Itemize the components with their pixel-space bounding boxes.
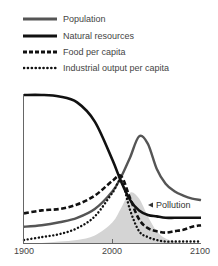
chart-plot-area: 1900 2000 2100 Pollution xyxy=(0,0,218,266)
series-layer xyxy=(24,95,201,243)
x-tick-label-2100: 2100 xyxy=(190,246,210,256)
pollution-marker-icon xyxy=(148,203,153,208)
population-line xyxy=(24,136,201,227)
x-tick-label-2000: 2000 xyxy=(102,246,122,256)
pollution-annotation: Pollution xyxy=(156,200,191,210)
x-tick-label-1900: 1900 xyxy=(14,246,34,256)
